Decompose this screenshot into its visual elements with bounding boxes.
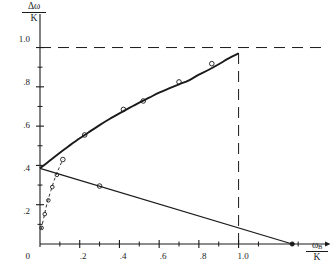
- figure-plot: Δω K ωB K 1.0 .8 .6 .4 .2 0 .2 .4 .6 .8 …: [0, 0, 330, 271]
- data-point-marker: [209, 61, 214, 66]
- descending-line: [40, 168, 292, 244]
- x-axis-arrow-icon: [325, 241, 330, 246]
- data-point-marker: [51, 185, 55, 189]
- theoretical-curve: [40, 53, 239, 168]
- plot-canvas: [0, 0, 330, 271]
- endpoint-marker: [290, 242, 294, 246]
